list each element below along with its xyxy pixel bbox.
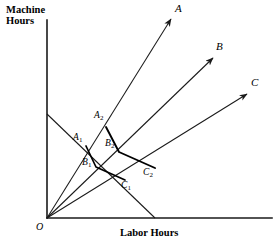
point-label-b2: B2 (105, 138, 115, 150)
origin-label: O (36, 222, 43, 233)
ray-label-a: A (175, 3, 182, 15)
point-label-b1: B1 (82, 157, 92, 169)
ray-label-c: C (251, 77, 258, 89)
figure-canvas: Machine Hours Labor Hours O A B C A1 A2 … (0, 0, 278, 245)
point-label-a2: A2 (94, 110, 104, 122)
y-axis-title: Machine Hours (6, 4, 45, 27)
point-label-c2: C2 (143, 167, 153, 179)
point-label-c1: C1 (121, 180, 131, 192)
point-label-a1: A1 (73, 132, 83, 144)
axes-group (47, 20, 272, 218)
y-axis-title-line-1: Machine (6, 4, 45, 15)
process-ray-a (47, 19, 171, 218)
x-axis-title: Labor Hours (120, 227, 178, 238)
process-ray-c (47, 94, 247, 218)
ray-label-b: B (216, 41, 223, 53)
diagram-svg (0, 0, 278, 245)
y-axis-title-line-2: Hours (6, 15, 45, 26)
